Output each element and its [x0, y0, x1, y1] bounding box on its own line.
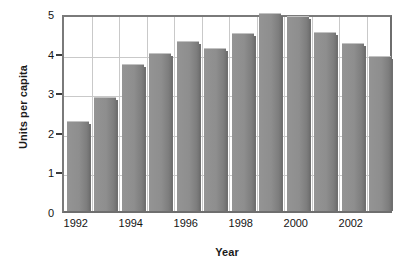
x-axis-tick-label: 1998	[229, 218, 253, 229]
y-axis-title-label: Units per capita	[17, 64, 29, 148]
bar	[232, 33, 254, 211]
gridline-vertical	[339, 17, 340, 211]
gridline-vertical	[202, 17, 203, 211]
x-axis-tick-label: 1996	[174, 218, 198, 229]
bar-chart-figure: Units per capita 012345 1992199419961998…	[0, 0, 419, 275]
y-axis-tick-label: 4	[40, 49, 54, 60]
bar	[314, 32, 336, 211]
bar	[369, 56, 391, 211]
gridline-vertical	[174, 17, 175, 211]
y-axis-tick-label: 2	[40, 128, 54, 139]
gridline-vertical	[284, 17, 285, 211]
x-axis-tick-label: 1994	[119, 218, 143, 229]
bar	[149, 53, 171, 211]
y-axis-tick-label: 3	[40, 89, 54, 100]
gridline-vertical	[229, 17, 230, 211]
bar	[259, 13, 281, 211]
gridline-vertical	[367, 17, 368, 211]
gridline-vertical	[92, 17, 93, 211]
x-axis-title: Year	[62, 246, 392, 258]
gridline-vertical	[147, 17, 148, 211]
bar	[122, 64, 144, 211]
gridline-vertical	[119, 17, 120, 211]
plot-area	[62, 15, 392, 213]
bar	[67, 121, 89, 211]
gridline-vertical	[257, 17, 258, 211]
y-axis-tick-label: 5	[40, 10, 54, 21]
y-axis-tick-label: 1	[40, 168, 54, 179]
x-axis-tick-label: 2002	[339, 218, 363, 229]
x-axis-tick-label: 1992	[64, 218, 88, 229]
y-axis-tick-label: 0	[40, 208, 54, 219]
bar	[204, 48, 226, 211]
x-axis-tick-label: 2000	[284, 218, 308, 229]
gridline-vertical	[312, 17, 313, 211]
bar	[287, 16, 309, 211]
bar	[342, 43, 364, 211]
bar	[94, 97, 116, 211]
bar	[177, 41, 199, 211]
plot-inner	[64, 17, 390, 211]
y-axis-title: Units per capita	[0, 0, 46, 213]
